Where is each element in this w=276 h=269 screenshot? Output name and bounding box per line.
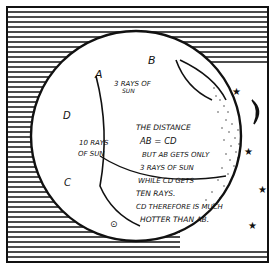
earth-sun-rays-diagram: A B D C ⊙ 3 RAYS OF SUN 10 RAYS OF SUN T… bbox=[0, 0, 276, 269]
explanation-line: TEN RAYS. bbox=[136, 189, 175, 198]
explanation-line: AB = CD bbox=[139, 136, 177, 146]
cd-rays-label-line2: OF SUN bbox=[78, 150, 105, 158]
star-icon: ★ bbox=[258, 184, 267, 195]
point-b2-label: ⊙ bbox=[110, 219, 118, 229]
explanation-line: BUT AB GETS ONLY bbox=[142, 151, 210, 159]
star-icon: ★ bbox=[232, 86, 241, 97]
ab-rays-label-line2: SUN bbox=[122, 87, 135, 94]
star-icon: ★ bbox=[248, 220, 257, 231]
night-side-shading bbox=[205, 62, 241, 212]
cd-rays-label-line1: 10 RAYS bbox=[79, 139, 109, 147]
explanation-line: WHILE CD GETS bbox=[138, 177, 194, 185]
point-a-label: A bbox=[94, 68, 103, 81]
explanation-line: CD THEREFORE IS MUCH bbox=[136, 203, 224, 211]
frame-border bbox=[7, 7, 268, 262]
point-d-label: D bbox=[63, 110, 71, 121]
star-icon: ★ bbox=[244, 146, 253, 157]
arc-inner-upper bbox=[176, 60, 212, 100]
explanation-line: THE DISTANCE bbox=[136, 123, 191, 132]
explanation-line: HOTTER THAN AB. bbox=[140, 215, 209, 224]
explanation-line: 3 RAYS OF SUN bbox=[140, 164, 195, 172]
explanation-text: THE DISTANCE AB = CD BUT AB GETS ONLY 3 … bbox=[136, 123, 224, 224]
crescent-moon-icon bbox=[252, 100, 259, 124]
point-c-label: C bbox=[64, 177, 71, 188]
sun-ray-lines bbox=[7, 12, 268, 257]
point-b-label: B bbox=[148, 54, 156, 67]
